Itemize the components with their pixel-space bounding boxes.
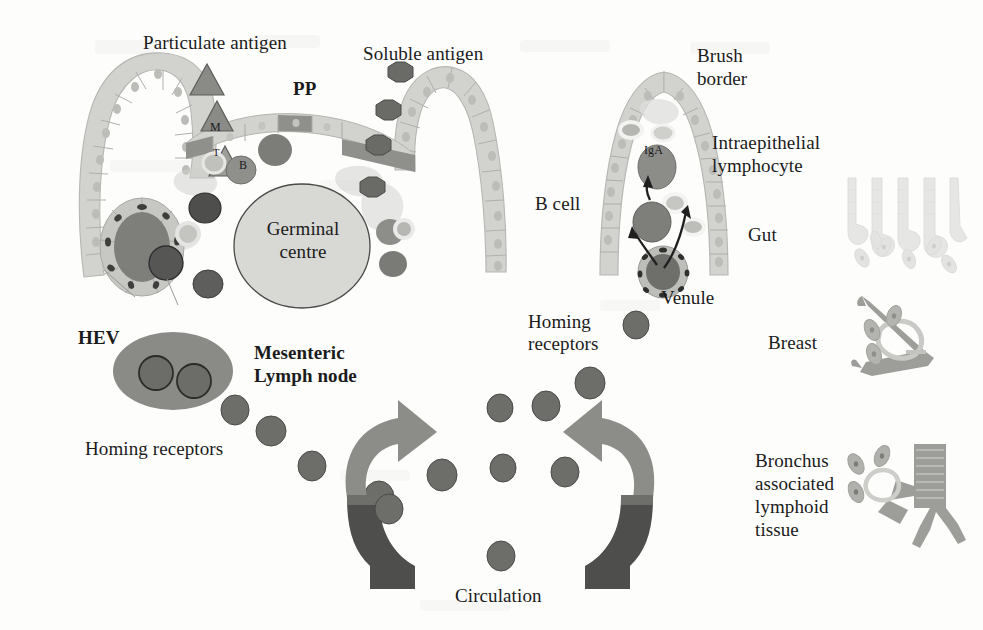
label-soluble-antigen: Soluble antigen xyxy=(363,43,483,65)
breast-icon xyxy=(851,296,934,376)
b-cell-shape xyxy=(633,202,671,242)
label-hev: HEV xyxy=(78,327,119,349)
label-germinal-centre-line1: Germinal xyxy=(248,218,358,240)
label-intraepithelial-line2: lymphocyte xyxy=(712,155,803,177)
label-homing-receptors-right-line2: receptors xyxy=(528,333,599,355)
label-pp: PP xyxy=(293,78,316,100)
label-m-cell: M xyxy=(210,120,221,134)
label-bronchus-line2: associated xyxy=(755,473,834,495)
label-breast: Breast xyxy=(768,332,817,354)
label-bronchus-line4: tissue xyxy=(755,519,799,541)
label-b-cell: B cell xyxy=(535,193,580,215)
label-homing-receptors-left: Homing receptors xyxy=(85,438,223,460)
circulation-arrow-right-light xyxy=(563,400,654,498)
hev-vessel xyxy=(100,198,184,305)
label-mesenteric-line2: Lymph node xyxy=(254,365,357,387)
label-venule: Venule xyxy=(661,287,714,309)
label-germinal-centre-line2: centre xyxy=(248,241,358,263)
label-intraepithelial-line1: Intraepithelial xyxy=(712,132,820,154)
label-brush-border-line2: border xyxy=(697,68,747,90)
villus-group xyxy=(600,72,728,298)
label-b-cell-marker: B xyxy=(239,158,247,172)
gut-icon xyxy=(848,178,967,276)
label-t-cell: T xyxy=(213,147,220,159)
label-gut: Gut xyxy=(748,224,777,246)
bronchus-icon xyxy=(844,443,966,548)
label-homing-receptors-right-line1: Homing xyxy=(528,311,591,333)
label-circulation: Circulation xyxy=(455,585,542,607)
label-brush-border-line1: Brush xyxy=(697,45,743,67)
label-bronchus-line3: lymphoid xyxy=(755,496,829,518)
label-bronchus-line1: Bronchus xyxy=(755,450,829,472)
circulation-arrow-right-dark xyxy=(585,498,653,589)
label-mesenteric-line1: Mesenteric xyxy=(254,342,345,364)
diagram-graphics xyxy=(0,0,983,630)
label-iga: IgA xyxy=(644,143,663,157)
circulation-arrow-left-light xyxy=(346,400,437,498)
label-particulate-antigen: Particulate antigen xyxy=(143,32,287,54)
mucosal-immunity-diagram: Particulate antigen Soluble antigen PP M… xyxy=(0,0,983,630)
mesenteric-lymph-node-group xyxy=(113,332,233,410)
